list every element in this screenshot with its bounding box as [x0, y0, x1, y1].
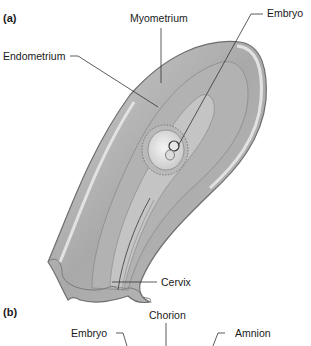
label-embryo-b: Embryo [71, 327, 107, 339]
label-chorion: Chorion [149, 309, 186, 321]
label-embryo-a: Embryo [267, 7, 303, 19]
label-cervix: Cervix [161, 276, 191, 288]
embryo-figure [169, 141, 179, 151]
panel-a-label: (a) [3, 12, 16, 24]
label-endometrium: Endometrium [3, 50, 65, 62]
leader-lines-b [116, 323, 225, 346]
label-myometrium: Myometrium [130, 12, 188, 24]
label-amnion: Amnion [235, 327, 271, 339]
panel-b-label: (b) [3, 306, 17, 318]
